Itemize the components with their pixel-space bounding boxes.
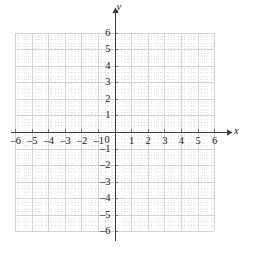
y-tick-label: 1 [97, 110, 111, 121]
y-tick-label: 3 [97, 77, 111, 88]
origin-tick-label: 0 [105, 135, 110, 146]
x-tick-label: –2 [77, 136, 87, 147]
x-tick-label: 6 [210, 136, 220, 147]
y-tick-label: –5 [97, 210, 111, 221]
y-tick-label: 5 [97, 44, 111, 55]
y-tick-label: 2 [97, 94, 111, 105]
axis-lines [11, 8, 233, 242]
y-tick-label: –4 [97, 193, 111, 204]
y-tick-label: 4 [97, 61, 111, 72]
x-tick-label: 2 [143, 136, 153, 147]
y-tick-label: –2 [97, 160, 111, 171]
x-tick-label: –4 [44, 136, 54, 147]
x-tick-label: 1 [127, 136, 137, 147]
x-tick-label: 4 [176, 136, 186, 147]
x-tick-label: 5 [193, 136, 203, 147]
y-axis-label: y [117, 2, 122, 13]
x-tick-label: –5 [27, 136, 37, 147]
x-tick-label: –6 [10, 136, 20, 147]
grid-and-axes-canvas [0, 0, 253, 256]
x-tick-label: 3 [160, 136, 170, 147]
coordinate-plane-figure: –6–5–4–3–2–1123456 654321–1–2–3–4–5–6 0 … [0, 0, 253, 256]
y-tick-label: 6 [97, 28, 111, 39]
y-tick-label: –6 [97, 226, 111, 237]
y-tick-label: –3 [97, 177, 111, 188]
x-axis-label: x [234, 126, 239, 137]
x-tick-label: –3 [60, 136, 70, 147]
